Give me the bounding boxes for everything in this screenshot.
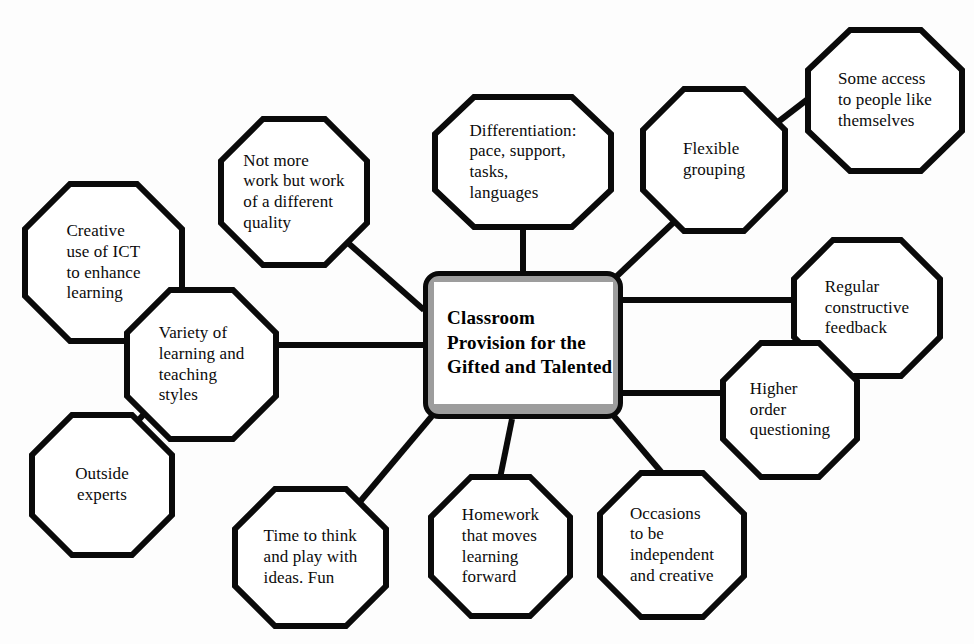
flexible-grouping-label: Flexiblegrouping <box>673 139 755 180</box>
some-access-label: Some accessto people likethemselves <box>828 69 942 131</box>
node-time-to-think[interactable]: Time to thinkand play withideas. Fun <box>232 486 389 629</box>
homework-label-box: Homeworkthat moveslearningforward <box>428 474 573 619</box>
node-outside-experts[interactable]: Outsideexperts <box>29 412 175 558</box>
occasions-independent-label: Occasionsto beindependentand creative <box>620 504 724 587</box>
node-flexible-grouping[interactable]: Flexiblegrouping <box>640 86 788 234</box>
node-occasions-independent[interactable]: Occasionsto beindependentand creative <box>597 470 747 620</box>
some-access-label-box: Some accessto people likethemselves <box>805 27 965 174</box>
higher-order-label-box: Higherorderquestioning <box>720 340 860 480</box>
occasions-independent-label-box: Occasionsto beindependentand creative <box>597 470 747 620</box>
outside-experts-label: Outsideexperts <box>65 464 139 505</box>
variety-styles-label: Variety oflearning andteachingstyles <box>149 323 255 406</box>
regular-feedback-label: Regularconstructivefeedback <box>815 277 919 339</box>
flexible-grouping-label-box: Flexiblegrouping <box>640 86 788 234</box>
higher-order-label: Higherorderquestioning <box>740 379 840 441</box>
homework-label: Homeworkthat moveslearningforward <box>452 505 549 588</box>
outside-experts-label-box: Outsideexperts <box>29 412 175 558</box>
connector-center-to-homework <box>500 419 512 478</box>
not-more-work-label-box: Not morework but workof a differentquali… <box>218 116 370 268</box>
time-to-think-label-box: Time to thinkand play withideas. Fun <box>232 486 389 629</box>
node-differentiation[interactable]: Differentiation:pace, support,tasks,lang… <box>432 94 614 230</box>
center-node[interactable]: Classroom Provision for the Gifted and T… <box>423 271 623 419</box>
node-higher-order[interactable]: Higherorderquestioning <box>720 340 860 480</box>
node-not-more-work[interactable]: Not morework but workof a differentquali… <box>218 116 370 268</box>
node-some-access[interactable]: Some accessto people likethemselves <box>805 27 965 174</box>
differentiation-label-box: Differentiation:pace, support,tasks,lang… <box>432 94 614 230</box>
diagram-canvas: Classroom Provision for the Gifted and T… <box>0 0 974 644</box>
node-homework[interactable]: Homeworkthat moveslearningforward <box>428 474 573 619</box>
center-node-inner: Classroom Provision for the Gifted and T… <box>434 282 613 404</box>
differentiation-label: Differentiation:pace, support,tasks,lang… <box>459 121 586 204</box>
center-node-label: Classroom Provision for the Gifted and T… <box>447 306 613 380</box>
not-more-work-label: Not morework but workof a differentquali… <box>233 151 354 234</box>
time-to-think-label: Time to thinkand play withideas. Fun <box>254 526 368 588</box>
